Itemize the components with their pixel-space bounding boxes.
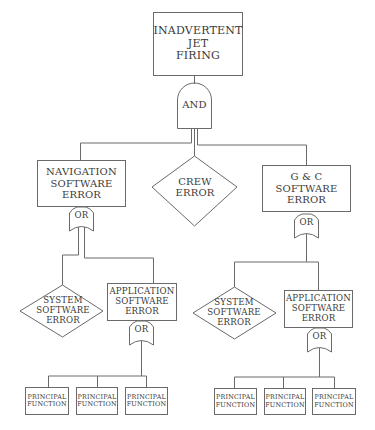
right-system-label: SYSTEM SOFTWARE ERROR <box>199 297 269 329</box>
gnc-or-label: OR <box>294 217 319 229</box>
left-system-label: SYSTEM SOFTWARE ERROR <box>28 295 98 327</box>
right-principal-function-3: PRINCIPAL FUNCTION <box>312 388 356 415</box>
left-principal-function-3: PRINCIPAL FUNCTION <box>125 387 168 415</box>
left-application-label: APPLICATION SOFTWARE ERROR <box>107 283 177 321</box>
right-principal-function-1: PRINCIPAL FUNCTION <box>214 388 257 415</box>
navigation-or-label: OR <box>69 210 94 222</box>
crew-error-label: CREW ERROR <box>160 172 230 202</box>
top-event-label: INADVERTENT JET FIRING <box>153 12 243 76</box>
right-principal-function-2: PRINCIPAL FUNCTION <box>264 388 306 415</box>
left-application-or-label: OR <box>129 324 154 336</box>
navigation-label: NAVIGATION SOFTWARE ERROR <box>37 160 126 207</box>
left-principal-function-2: PRINCIPAL FUNCTION <box>76 387 118 415</box>
right-application-label: APPLICATION SOFTWARE ERROR <box>284 290 353 328</box>
and-gate-label: AND <box>177 95 212 115</box>
gnc-label: G & C SOFTWARE ERROR <box>262 165 351 212</box>
right-application-or-label: OR <box>307 331 332 343</box>
left-principal-function-1: PRINCIPAL FUNCTION <box>25 387 69 415</box>
